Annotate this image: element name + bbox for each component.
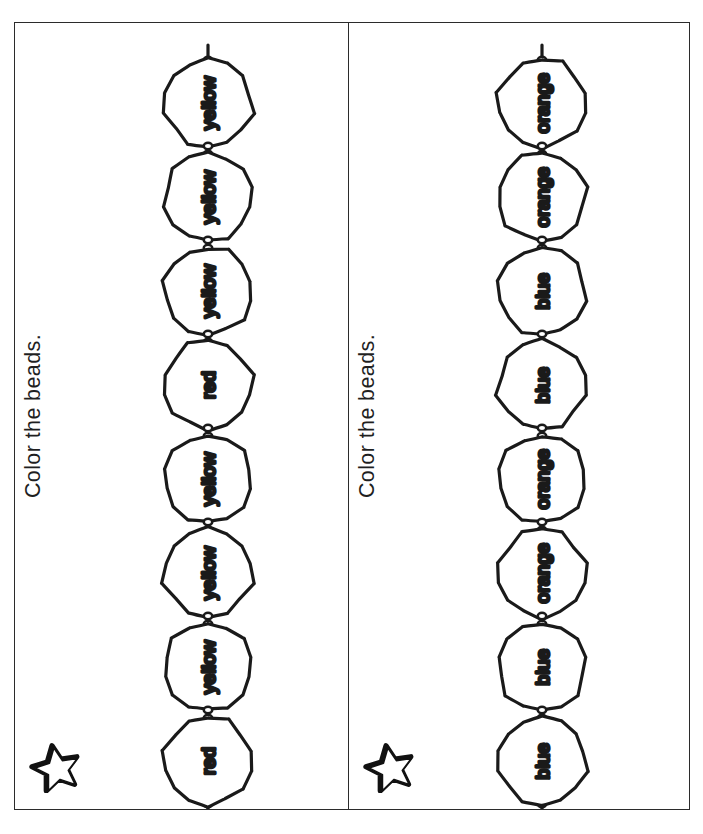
bead-label: orange [532,167,553,227]
bead-label: red [198,747,219,775]
bead-label: yellow [198,76,219,130]
bead-strand-right: orangeorangeblueblueorangeorangeblueblue [467,23,617,809]
worksheet-page: Color the beads. yellowyellowyellowredye… [0,0,703,834]
bead-strand-left: yellowyellowyellowredyellowyellowyellowr… [133,23,283,809]
panel-right-title: Color the beads. [355,251,380,581]
bead-label: yellow [198,452,219,506]
worksheet-frame: Color the beads. yellowyellowyellowredye… [14,22,690,810]
bead-label: orange [532,449,553,509]
bead-label: yellow [198,546,219,600]
bead-label: blue [532,273,553,310]
star-icon [29,741,81,793]
bead-label: yellow [198,264,219,318]
panel-left: Color the beads. yellowyellowyellowredye… [15,23,349,809]
bead-label: orange [532,543,553,603]
bead-label: yellow [198,640,219,694]
bead-label: red [198,371,219,399]
bead-label: blue [532,649,553,686]
panel-right: Color the beads. orangeorangeblueblueora… [349,23,689,809]
bead-label: blue [532,743,553,780]
bead-label: orange [532,73,553,133]
bead-label: blue [532,367,553,404]
bead-label: yellow [198,170,219,224]
panel-left-title: Color the beads. [21,251,46,581]
star-icon [363,741,415,793]
